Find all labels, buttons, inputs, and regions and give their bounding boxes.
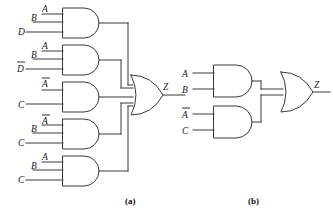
and-gate-b1[interactable]	[193, 65, 283, 97]
panel-b-group: A B A C Z	[181, 65, 330, 138]
input-label-a5-A: A	[41, 152, 48, 162]
circuit-diagram-svg: A B D A B D A C A B C A B C Z	[0, 0, 333, 218]
input-label-a4-C: C	[18, 138, 25, 148]
input-label-b2-C: C	[182, 126, 189, 136]
output-label-a-Z: Z	[163, 82, 169, 92]
and-gate-b2[interactable]	[193, 95, 283, 138]
input-label-a3-C: C	[18, 100, 25, 110]
input-label-b1-A: A	[181, 69, 188, 79]
input-label-a4-Abar: A	[41, 116, 48, 126]
input-label-a3-Abar: A	[41, 79, 48, 89]
output-label-b-Z: Z	[314, 80, 320, 90]
input-label-a1-A: A	[41, 4, 48, 14]
input-label-a1-D: D	[17, 27, 25, 37]
panel-a-group: A B D A B D A C A B C A B C Z	[16, 4, 185, 186]
or-gate-b[interactable]	[281, 72, 330, 112]
input-label-a5-B: B	[31, 161, 37, 171]
input-label-a2-B: B	[31, 50, 37, 60]
input-label-b1-B: B	[182, 85, 188, 95]
figure-canvas: A B D A B D A C A B C A B C Z	[0, 0, 333, 218]
input-label-a1-B: B	[31, 13, 37, 23]
caption-a: (a)	[125, 196, 136, 206]
input-label-a4-B: B	[31, 124, 37, 134]
input-label-a5-C: C	[18, 175, 25, 185]
input-label-b2-Abar: A	[181, 110, 188, 120]
panel-a-input-labels: A B D A B D A C A B C A B C	[16, 4, 50, 185]
input-label-a2-Dbar: D	[16, 64, 24, 74]
or-gate-a[interactable]	[131, 75, 185, 115]
input-label-a2-A: A	[41, 41, 48, 51]
panel-b-input-labels: A B A C	[181, 69, 190, 136]
caption-b: (b)	[248, 196, 259, 206]
